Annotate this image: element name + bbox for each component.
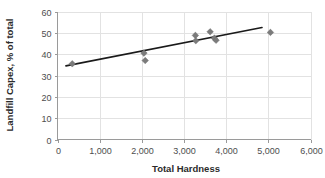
chart-container: 010203040506001,0002,0003,0004,0005,0006… <box>0 0 325 178</box>
scatter-plot: 010203040506001,0002,0003,0004,0005,0006… <box>0 0 325 178</box>
y-tick-label: 50 <box>41 29 51 39</box>
x-tick-label: 2,000 <box>131 146 154 156</box>
x-tick-label: 3,000 <box>173 146 196 156</box>
x-tick-label: 5,000 <box>257 146 280 156</box>
y-tick-label: 10 <box>41 114 51 124</box>
x-tick-label: 4,000 <box>215 146 238 156</box>
y-tick-label: 0 <box>46 136 51 146</box>
x-axis-title: Total Hardness <box>152 163 220 174</box>
y-tick-label: 30 <box>41 72 51 82</box>
x-tick-label: 0 <box>56 146 61 156</box>
data-point-marker <box>193 37 200 44</box>
y-tick-label: 20 <box>41 93 51 103</box>
data-point-marker <box>69 60 76 67</box>
y-axis-title: Landfill Capex, % of total <box>4 19 15 132</box>
x-tick-label: 1,000 <box>89 146 112 156</box>
y-tick-label: 40 <box>41 50 51 60</box>
data-points <box>69 28 274 67</box>
y-tick-label: 60 <box>41 8 51 18</box>
gridlines <box>58 12 312 140</box>
x-tick-label: 6,000 <box>300 146 323 156</box>
data-point-marker <box>207 28 214 35</box>
axis-tick-labels: 010203040506001,0002,0003,0004,0005,0006… <box>41 8 322 156</box>
